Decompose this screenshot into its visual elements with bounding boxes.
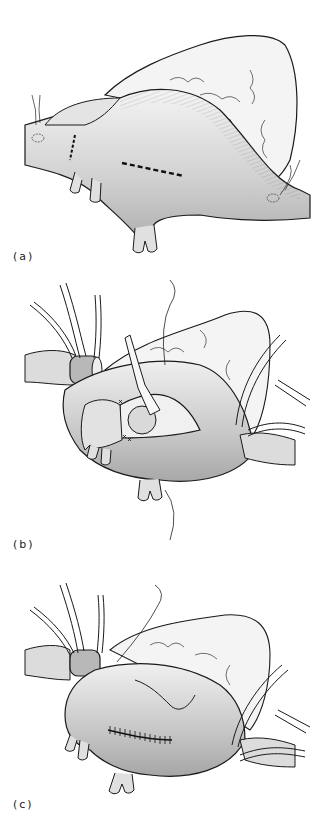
panel-a: (a): [0, 0, 332, 270]
panel-label-b: (b): [13, 538, 35, 551]
illustration-c: [0, 555, 332, 817]
panel-label-a: (a): [13, 250, 34, 263]
illustration-b: [0, 270, 332, 555]
panel-c: (c): [0, 555, 332, 817]
illustration-a: [0, 0, 332, 270]
panel-b: (b): [0, 270, 332, 555]
panel-label-c: (c): [13, 798, 34, 811]
